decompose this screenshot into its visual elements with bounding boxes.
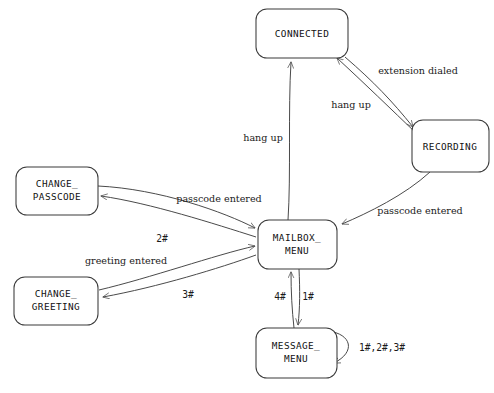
state-connected-label: CONNECTED [275,28,329,39]
edge-message-to-mailbox [291,272,294,328]
edge-label-hang-up-recording: hang up [331,99,371,110]
state-mailbox-menu-label-line1: MAILBOX_ [273,232,321,243]
edge-label-greeting-entered: greeting entered [85,255,167,266]
state-message-menu-label-line2: MENU [284,353,308,364]
state-change-greeting[interactable]: CHANGE_ GREETING [14,277,98,325]
edge-recording-to-mailbox [342,172,430,224]
edge-label-4hash: 4# [274,291,286,302]
edge-label-self-loop: 1#,2#,3# [359,342,405,353]
state-message-menu[interactable]: MESSAGE_ MENU [256,328,337,378]
state-diagram: CONNECTED RECORDING CHANGE_ PASSCODE CHA… [0,0,494,393]
state-mailbox-menu-label-line2: MENU [285,245,309,256]
state-connected[interactable]: CONNECTED [256,9,348,58]
edge-label-passcode-entered-change: passcode entered [176,193,262,204]
state-change-passcode[interactable]: CHANGE_ PASSCODE [16,167,98,215]
state-change-passcode-label-line1: CHANGE_ [36,178,78,189]
edge-label-extension-dialed: extension dialed [378,65,458,76]
edge-label-3hash: 3# [182,289,194,300]
edge-greeting-to-mailbox [99,246,255,290]
state-change-greeting-label-line2: GREETING [32,301,80,312]
state-recording[interactable]: RECORDING [412,120,489,172]
state-change-passcode-label-line2: PASSCODE [33,191,81,202]
state-change-greeting-label-line1: CHANGE_ [35,288,77,299]
edge-mailbox-to-connected [288,62,291,220]
edge-label-hang-up-mailbox: hang up [243,132,283,143]
edge-label-2hash: 2# [156,233,168,244]
state-recording-label: RECORDING [423,141,477,152]
diagram-canvas: CONNECTED RECORDING CHANGE_ PASSCODE CHA… [0,0,494,393]
edge-mailbox-to-message [298,269,300,325]
edge-label-1hash: 1# [302,291,314,302]
edge-label-passcode-entered-recording: passcode entered [377,205,463,216]
state-mailbox-menu[interactable]: MAILBOX_ MENU [258,220,337,269]
state-message-menu-label-line1: MESSAGE_ [272,340,320,351]
